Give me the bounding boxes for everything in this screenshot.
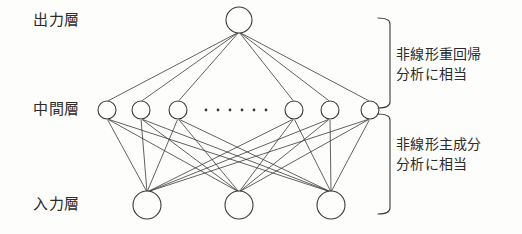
edge-hidden4-input2 [239, 120, 293, 192]
layer-label-input: 入力層 [33, 197, 80, 212]
annotation-bottom-line2: 分析に相当 [396, 155, 482, 175]
node-group-output [226, 7, 252, 33]
edge-group-output-hidden [108, 32, 369, 101]
edge-hidden6-input3 [331, 120, 369, 192]
edge-hidden2-input2 [142, 120, 239, 192]
input-node-1 [133, 191, 161, 219]
hidden-node-5 [321, 101, 339, 119]
edge-hidden3-input2 [179, 120, 239, 192]
ellipsis-dot-2 [217, 109, 220, 112]
edge-output-hidden-5 [239, 32, 329, 101]
input-node-2 [225, 191, 253, 219]
ellipsis-dot-4 [241, 109, 244, 112]
hidden-node-6 [361, 101, 379, 119]
upper-brace [378, 18, 390, 108]
figure-canvas: 出力層 中間層 入力層 非線形重回帰 分析に相当 非線形主成分 分析に相当 [0, 0, 522, 234]
edge-hidden3-input1 [147, 120, 177, 192]
node-group-input [133, 191, 345, 219]
annotation-nonlinear-multiple-regression: 非線形重回帰 分析に相当 [396, 45, 482, 85]
layer-label-hidden: 中間層 [33, 102, 80, 117]
edge-output-hidden-1 [108, 32, 239, 101]
edge-output-hidden-6 [239, 32, 369, 101]
edge-output-hidden-4 [239, 32, 293, 101]
edge-output-hidden-3 [179, 32, 239, 101]
ellipsis-dot-5 [253, 109, 256, 112]
hidden-layer-ellipsis [205, 109, 268, 112]
input-node-3 [317, 191, 345, 219]
ellipsis-dot-1 [205, 109, 208, 112]
edge-hidden3-input3 [179, 119, 331, 192]
annotation-top-line2: 分析に相当 [396, 65, 482, 85]
brace-group [378, 18, 390, 214]
ellipsis-dot-3 [229, 109, 232, 112]
edge-hidden5-input2 [239, 120, 329, 192]
hidden-node-3 [169, 101, 187, 119]
output-node-1 [226, 7, 252, 33]
edge-hidden2-input3 [142, 119, 331, 192]
edge-hidden1-input1 [108, 120, 147, 192]
edge-hidden5-input3 [330, 120, 331, 192]
annotation-top-line1: 非線形重回帰 [396, 45, 482, 65]
layer-label-output: 出力層 [33, 13, 80, 28]
hidden-node-4 [285, 101, 303, 119]
annotation-bottom-line1: 非線形主成分 [396, 135, 482, 155]
edge-output-hidden-2 [142, 32, 239, 101]
annotation-nonlinear-principal-component: 非線形主成分 分析に相当 [396, 135, 482, 175]
lower-brace [378, 114, 390, 214]
ellipsis-dot-6 [265, 109, 268, 112]
node-group-hidden [98, 101, 379, 119]
hidden-node-1 [98, 101, 116, 119]
edge-group-hidden-input [108, 119, 370, 192]
hidden-node-2 [132, 101, 150, 119]
